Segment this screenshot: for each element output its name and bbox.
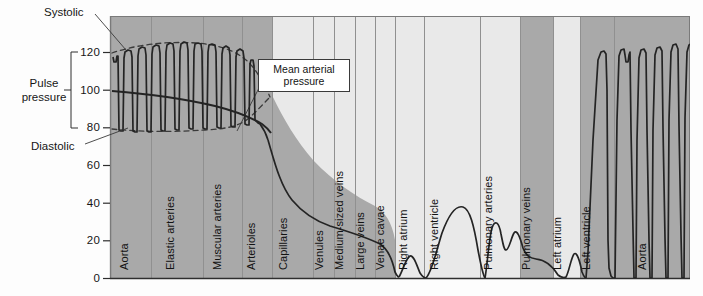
segment-label-muscular-arteries: Muscular arteries — [211, 184, 223, 270]
blood-pressure-figure: 120 100 80 60 40 20 0 Systolic Diastolic… — [0, 0, 703, 296]
y-tick-100: 100 — [70, 84, 100, 96]
mean-arterial-pressure-callout: Mean arterial pressure — [258, 59, 350, 92]
segment-label-venae-cavae: Venae cavae — [374, 205, 386, 270]
y-tick-20: 20 — [70, 234, 100, 246]
pulse-pressure-annotation: Pulse pressure — [15, 76, 73, 104]
segment-label-elastic-arteries: Elastic arteries — [164, 196, 176, 270]
segment-label-pulmonary-arteries: Pulmonary arteries — [482, 176, 494, 270]
y-tick-80: 80 — [70, 121, 100, 133]
segment-label-left-atrium: Left atrium — [551, 217, 563, 270]
y-tick-60: 60 — [70, 159, 100, 171]
y-tick-120: 120 — [70, 46, 100, 58]
segment-label-pulmonary-veins: Pulmonary veins — [520, 187, 532, 270]
diastolic-annotation: Diastolic — [31, 140, 74, 153]
y-tick-40: 40 — [70, 197, 100, 209]
segment-label-right-ventricle: Right ventricle — [428, 199, 440, 270]
pressure-chart-svg — [0, 0, 703, 296]
segment-label-large-veins: Large veins — [354, 212, 366, 270]
segment-label-venules: Venules — [313, 230, 325, 270]
systolic-annotation: Systolic — [44, 6, 84, 19]
y-axis — [103, 16, 111, 279]
segment-label-aorta-left: Aorta — [118, 243, 130, 270]
figure-root: 120 100 80 60 40 20 0 Systolic Diastolic… — [0, 0, 703, 296]
segment-label-capillaries: Capillaries — [277, 218, 289, 270]
segment-label-medium-sized-veins: Medium-sized veins — [333, 171, 345, 270]
segment-label-aorta-right: Aorta — [636, 243, 648, 270]
segment-label-left-ventricle: Left ventricle — [580, 206, 592, 270]
y-tick-0: 0 — [70, 272, 100, 284]
segment-label-right-atrium: Right atrium — [397, 210, 409, 271]
segment-label-arterioles: Arterioles — [245, 223, 257, 270]
